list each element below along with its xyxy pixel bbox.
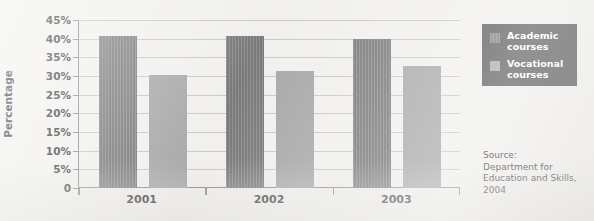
y-axis-tick: [73, 57, 79, 58]
chart-plot-area: 45%40%35%30%25%20%15%10%5%0: [78, 20, 460, 188]
y-axis-tick-label: 20%: [46, 107, 71, 119]
bar-academic-2003: [353, 39, 391, 188]
y-axis-tick-label: 15%: [46, 126, 71, 138]
y-axis-tick: [73, 39, 79, 40]
y-axis-title: Percentage: [2, 70, 14, 138]
legend-label-vocational: Vocational courses: [507, 59, 563, 81]
y-axis-tick: [73, 20, 79, 21]
y-axis-tick: [73, 76, 79, 77]
bar-vocational-2001: [149, 75, 187, 188]
y-axis-tick: [73, 113, 79, 114]
y-axis-tick: [73, 132, 79, 133]
y-axis-tick-label: 25%: [46, 89, 71, 101]
y-axis-tick-label: 35%: [46, 51, 71, 63]
source-note: Source: Department for Education and Ski…: [483, 150, 591, 197]
x-axis-labels: 200120022003: [78, 193, 460, 213]
chart-plot-inner: 45%40%35%30%25%20%15%10%5%0: [79, 20, 460, 188]
legend-label-academic: Academic courses: [507, 31, 558, 53]
y-axis-tick: [73, 151, 79, 152]
legend-item-academic[interactable]: Academic courses: [490, 31, 571, 53]
gridline: [79, 20, 460, 21]
x-axis-label-2003: 2003: [381, 193, 412, 206]
y-axis-tick-label: 0: [64, 182, 71, 194]
bar-academic-2002: [226, 36, 264, 188]
chart-legend: Academic courses Vocational courses: [482, 24, 577, 86]
y-axis-tick: [73, 95, 79, 96]
y-axis-tick-label: 10%: [46, 145, 71, 157]
bar-vocational-2002: [276, 71, 314, 188]
y-axis-tick-label: 40%: [46, 33, 71, 45]
legend-swatch-academic-icon: [490, 33, 500, 43]
y-axis-tick-label: 5%: [53, 163, 71, 175]
bar-vocational-2003: [403, 66, 441, 188]
y-axis-tick-label: 45%: [46, 14, 71, 26]
y-axis-tick: [73, 169, 79, 170]
bar-academic-2001: [99, 36, 137, 188]
x-axis-label-2001: 2001: [126, 193, 157, 206]
x-axis-label-2002: 2002: [254, 193, 285, 206]
legend-item-vocational[interactable]: Vocational courses: [490, 59, 571, 81]
y-axis-tick-label: 30%: [46, 70, 71, 82]
legend-swatch-vocational-icon: [490, 61, 500, 71]
